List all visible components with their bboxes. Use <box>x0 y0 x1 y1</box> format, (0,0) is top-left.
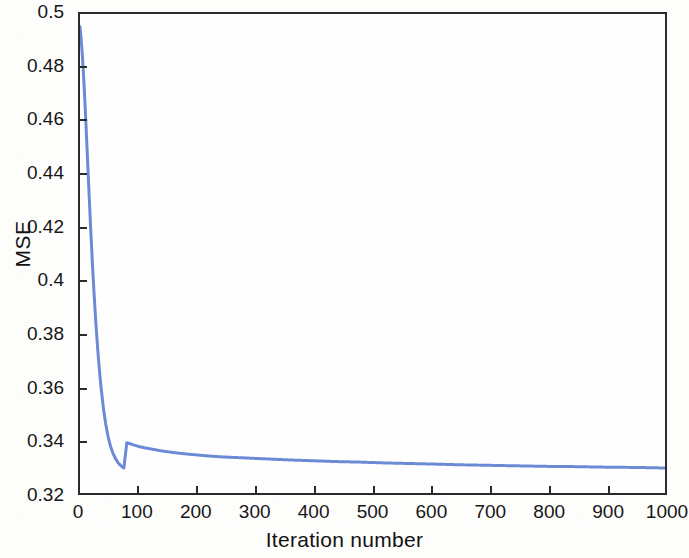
x-axis-title: Iteration number <box>0 528 689 552</box>
y-tick-mark <box>78 119 87 121</box>
y-tick-mark <box>78 227 87 229</box>
figure-canvas: 0.320.340.360.380.40.420.440.460.480.5 0… <box>0 0 689 558</box>
x-tick-label: 600 <box>416 501 448 523</box>
y-tick-mark <box>78 388 87 390</box>
mse-curve-svg <box>80 14 665 493</box>
y-tick-mark <box>78 280 87 282</box>
x-tick-label: 900 <box>592 501 624 523</box>
x-tick-label: 400 <box>298 501 330 523</box>
y-tick-mark <box>78 334 87 336</box>
x-tick-mark <box>255 486 257 495</box>
x-tick-label: 100 <box>121 501 153 523</box>
x-tick-label: 1000 <box>646 501 688 523</box>
y-tick-label: 0.34 <box>27 430 64 452</box>
x-tick-mark <box>608 486 610 495</box>
x-tick-mark <box>137 486 139 495</box>
mse-curve-line <box>80 27 665 468</box>
y-tick-label: 0.4 <box>38 269 64 291</box>
x-tick-label: 700 <box>474 501 506 523</box>
x-tick-label: 200 <box>180 501 212 523</box>
x-tick-label: 0 <box>73 501 84 523</box>
y-axis-title: MSE <box>11 199 35 289</box>
x-tick-mark <box>431 486 433 495</box>
x-axis-tick-labels: 01002003004005006007008009001000 <box>0 497 689 531</box>
x-tick-mark <box>373 486 375 495</box>
plot-area <box>78 12 667 495</box>
y-tick-label: 0.46 <box>27 108 64 130</box>
y-tick-label: 0.38 <box>27 323 64 345</box>
x-tick-mark <box>196 486 198 495</box>
y-tick-label: 0.44 <box>27 162 64 184</box>
y-tick-mark <box>78 66 87 68</box>
y-tick-mark <box>78 173 87 175</box>
x-tick-mark <box>314 486 316 495</box>
y-tick-label: 0.36 <box>27 377 64 399</box>
x-tick-mark <box>549 486 551 495</box>
x-tick-label: 500 <box>357 501 389 523</box>
x-tick-mark <box>490 486 492 495</box>
x-tick-label: 800 <box>533 501 565 523</box>
y-tick-label: 0.5 <box>38 1 64 23</box>
x-tick-label: 300 <box>239 501 271 523</box>
y-tick-mark <box>78 441 87 443</box>
y-tick-label: 0.48 <box>27 55 64 77</box>
